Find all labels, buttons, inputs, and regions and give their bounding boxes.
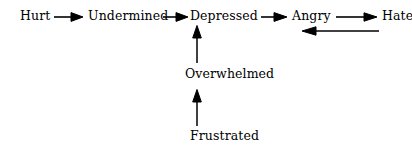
node-hate: Hate (382, 10, 412, 23)
node-frustrated: Frustrated (190, 130, 259, 143)
node-undermined: Undermined (88, 10, 168, 23)
arrow-right-icon-angry-to-hate (336, 11, 378, 23)
arrow-left-icon-hate-to-angry (301, 25, 380, 37)
arrow-right-icon-depressed-to-angry (261, 11, 288, 23)
node-hurt: Hurt (20, 10, 50, 23)
arrow-up-icon-overwhelmed-to-depressed (190, 25, 204, 64)
arrow-right-icon-undermined-to-depressed (163, 11, 189, 23)
node-depressed: Depressed (190, 10, 258, 23)
arrow-right-icon-hurt-to-undermined (54, 11, 84, 23)
node-overwhelmed: Overwhelmed (185, 68, 274, 81)
arrow-up-icon-frustrated-to-overwhelmed (190, 89, 204, 127)
emotion-flow-diagram: Hurt Undermined Depressed Angry Hate Ove… (0, 0, 412, 153)
node-angry: Angry (292, 10, 331, 23)
